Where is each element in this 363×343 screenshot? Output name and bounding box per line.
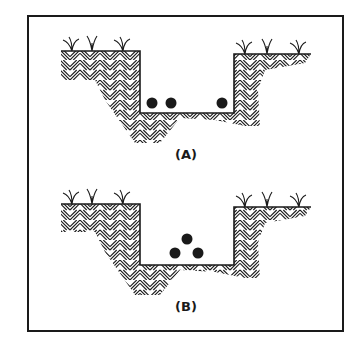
grass-icon: [262, 39, 272, 54]
grass-icon: [236, 193, 252, 207]
ball: [182, 234, 193, 245]
grass-icon: [262, 192, 272, 207]
grass-icon: [114, 190, 130, 204]
grass-icon: [236, 40, 252, 54]
grass-icon: [87, 189, 97, 204]
grass-icon: [114, 37, 130, 51]
grass-icon: [63, 190, 79, 204]
panel-b: (B): [61, 189, 311, 314]
soil-hatch-right: [160, 207, 311, 295]
grass-icon: [290, 40, 306, 54]
panel-b-label: (B): [175, 299, 197, 314]
grass-icon: [290, 193, 306, 207]
panel-a-label: (A): [175, 147, 197, 162]
ball: [170, 248, 181, 259]
grass-icon: [87, 36, 97, 51]
ball: [147, 98, 158, 109]
ball: [193, 248, 204, 259]
ball: [217, 98, 228, 109]
soil-hatch-left: [61, 204, 180, 295]
panel-a: (A): [61, 36, 311, 162]
ball: [166, 98, 177, 109]
soil-hatch-left: [61, 51, 180, 143]
soil-hatch-right: [160, 54, 311, 143]
trench-diagram: (A) (B): [0, 0, 363, 343]
grass-icon: [63, 37, 79, 51]
